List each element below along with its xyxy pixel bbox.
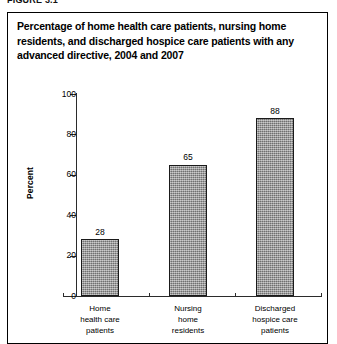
y-axis-title: Percent [25,151,35,215]
y-tick-60: 60 [38,170,76,179]
bar-nursing-home-residents[interactable] [169,165,207,296]
baseline-tick-right [321,293,322,297]
baseline-tick-2 [235,293,236,297]
category-label-home-health-care-patients: Home health care patients [62,303,138,336]
y-tick-label-20: 20 [50,251,76,260]
bar-discharged-hospice-care-patients[interactable] [256,118,294,296]
baseline-tick-1 [149,293,150,297]
bar-home-health-care-patients[interactable] [81,239,119,296]
category-label-discharged-hospice-care-patients: Discharged hospice care patients [237,303,313,336]
baseline-tick-left [63,293,64,297]
y-tick-40: 40 [38,211,76,220]
bar-value-home-health-care-patients: 28 [81,228,119,237]
category-label-line-3: patients [237,325,313,336]
bar-value-nursing-home-residents: 65 [169,153,207,162]
y-tick-label-80: 80 [50,130,76,139]
category-label-line-3: residents [150,325,226,336]
category-label-line-2: hospice care [237,314,313,325]
y-tick-0: 0 [38,292,76,301]
x-axis-line [63,296,322,297]
y-tick-80: 80 [38,130,76,139]
category-label-line-1: Discharged [237,303,313,314]
y-tick-label-60: 60 [50,170,76,179]
y-tick-label-40: 40 [50,211,76,220]
category-label-line-2: health care [62,314,138,325]
category-label-line-1: Nursing [150,303,226,314]
category-label-line-3: patients [62,325,138,336]
y-tick-20: 20 [38,251,76,260]
category-label-nursing-home-residents: Nursing home residents [150,303,226,336]
y-tick-100: 100 [38,90,76,99]
category-label-line-2: home [150,314,226,325]
category-label-line-1: Home [62,303,138,314]
y-axis-line [76,93,77,297]
y-tick-label-100: 100 [50,90,76,99]
bar-value-discharged-hospice-care-patients: 88 [256,107,294,116]
